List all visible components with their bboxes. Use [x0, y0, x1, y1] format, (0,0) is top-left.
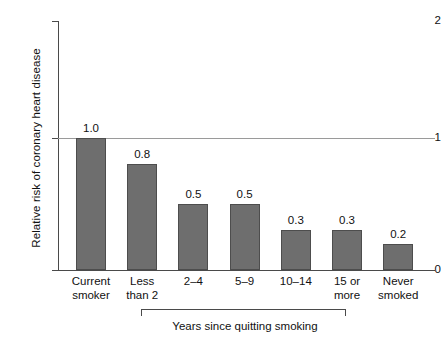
bar-value-label: 0.5	[164, 188, 222, 200]
relative-risk-bar-chart: Relative risk of coronary heart disease …	[0, 0, 441, 338]
gridline-at-one	[58, 138, 435, 139]
bar-value-label: 0.8	[113, 148, 171, 160]
x-group-bracket	[141, 309, 346, 316]
bar	[383, 244, 413, 270]
bar	[332, 230, 362, 270]
y-axis-title: Relative risk of coronary heart disease	[30, 18, 48, 278]
bar-value-label: 0.5	[216, 188, 274, 200]
bar-value-label: 0.2	[369, 228, 427, 240]
y-tick-label-1: 1	[397, 131, 441, 143]
y-tick-mark-0	[52, 270, 58, 271]
bar	[230, 204, 260, 270]
bar-value-label: 0.3	[267, 214, 325, 226]
y-axis-line	[58, 21, 59, 271]
bar-value-label: 0.3	[318, 214, 376, 226]
x-axis-category-label: Neversmoked	[367, 275, 429, 302]
bar	[281, 230, 311, 270]
y-tick-label-2: 2	[397, 14, 441, 26]
x-axis-group-label: Years since quitting smoking	[120, 320, 370, 332]
x-axis-line	[58, 270, 435, 271]
bar	[178, 204, 208, 270]
y-tick-mark-2	[52, 21, 58, 22]
bar	[127, 164, 157, 270]
bar	[76, 138, 106, 270]
bar-value-label: 1.0	[62, 122, 120, 134]
